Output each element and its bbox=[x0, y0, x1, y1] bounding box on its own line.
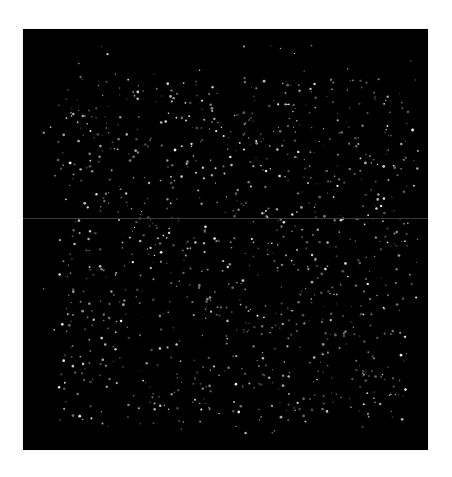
micrograph-image bbox=[23, 29, 428, 450]
spot-field bbox=[23, 29, 428, 450]
tile-seam-line bbox=[23, 218, 428, 219]
